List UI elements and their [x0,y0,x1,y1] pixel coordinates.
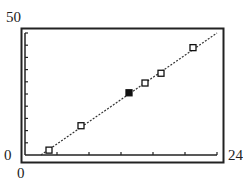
data-point-square [158,70,164,76]
data-point-square [190,45,196,51]
data-point-square [46,147,52,153]
data-point-square [126,90,132,96]
axes [25,33,217,155]
data-point-square [78,123,84,129]
data-point-square [142,80,148,86]
data-points [46,45,196,153]
scatter-plot [0,0,243,181]
